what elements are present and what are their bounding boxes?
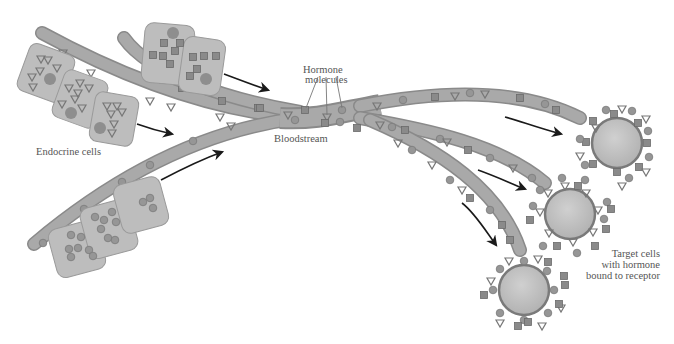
- target-cell-2: [527, 174, 615, 257]
- target-cells-label-line3: bound to receptor: [586, 270, 660, 282]
- hormone-molecules-label-line2: molecules: [305, 74, 348, 86]
- target-cell-3: [481, 256, 569, 330]
- bloodstream-label: Bloodstream: [274, 133, 328, 145]
- endocrine-diagram: [0, 0, 674, 344]
- endocrine-cells-label: Endocrine cells: [36, 146, 101, 158]
